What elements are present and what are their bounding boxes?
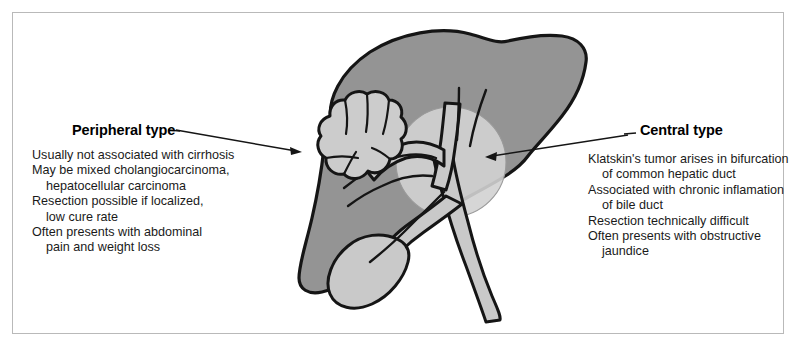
peripheral-line-3: hepatocellular carcinoma (32, 179, 234, 194)
central-line-6: Often presents with obstructive (588, 229, 789, 244)
peripheral-line-4: Resection possible if localized, (32, 194, 234, 209)
peripheral-line-2: May be mixed cholangiocarcinoma, (32, 163, 234, 178)
peripheral-type-title: Peripheral type (72, 122, 175, 138)
central-type-title: Central type (640, 122, 723, 138)
central-line-5: Resection technically difficult (588, 214, 789, 229)
peripheral-line-5: low cure rate (32, 210, 234, 225)
central-line-4: of bile duct (588, 198, 789, 213)
central-line-3: Associated with chronic inflamation (588, 183, 789, 198)
central-line-2: of common hepatic duct (588, 167, 789, 182)
peripheral-line-1: Usually not associated with cirrhosis (32, 148, 234, 163)
central-line-7: jaundice (588, 244, 789, 259)
peripheral-line-6: Often presents with abdominal (32, 225, 234, 240)
central-line-1: Klatskin's tumor arises in bifurcation (588, 152, 789, 167)
peripheral-type-description: Usually not associated with cirrhosis Ma… (32, 148, 234, 256)
central-title-dash (624, 133, 636, 134)
central-type-description: Klatskin's tumor arises in bifurcation o… (588, 152, 789, 260)
cholangiocarcinoma-figure: Peripheral type Usually not associated w… (0, 0, 802, 348)
peripheral-line-7: pain and weight loss (32, 240, 234, 255)
